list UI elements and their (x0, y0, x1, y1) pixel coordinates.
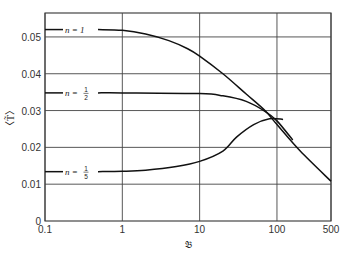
x-tick-label: 0.1 (38, 224, 52, 235)
y-tick-label: 0.02 (22, 142, 42, 153)
svg-text:5: 5 (84, 173, 88, 180)
svg-text:2: 2 (84, 94, 88, 101)
svg-text:n = 1: n = 1 (65, 25, 85, 35)
x-axis-label: 𝔅 (185, 239, 192, 250)
series-line (98, 30, 331, 182)
series-group: n = 1n = 12n = 15 (45, 25, 331, 182)
y-tick-label: 0.04 (22, 69, 42, 80)
x-tick-label: 500 (323, 224, 340, 235)
svg-text:n =: n = (65, 167, 78, 177)
series-line (98, 118, 283, 171)
chart: 00.010.020.030.040.05 0.1110100500 n = 1… (0, 0, 348, 255)
x-tick-label: 1 (120, 224, 126, 235)
x-tick-label: 100 (269, 224, 286, 235)
y-tick-label: 0.01 (22, 179, 42, 190)
series-label: n = 1 (65, 25, 85, 35)
series-line (98, 93, 293, 140)
series-label: n = 12 (65, 86, 89, 101)
y-tick-label: 0.03 (22, 106, 42, 117)
x-axis-ticks: 0.1110100500 (38, 224, 340, 235)
plot-frame (45, 13, 331, 221)
y-axis-ticks: 00.010.020.030.040.05 (22, 32, 42, 227)
y-tick-label: 0.05 (22, 32, 42, 43)
svg-text:n =: n = (65, 88, 78, 98)
svg-text:1: 1 (84, 86, 88, 93)
series-label: n = 15 (65, 165, 89, 180)
y-axis-label: 〈T̃〉 (4, 105, 16, 131)
x-tick-label: 10 (194, 224, 206, 235)
grid (45, 13, 331, 221)
svg-text:1: 1 (84, 165, 88, 172)
